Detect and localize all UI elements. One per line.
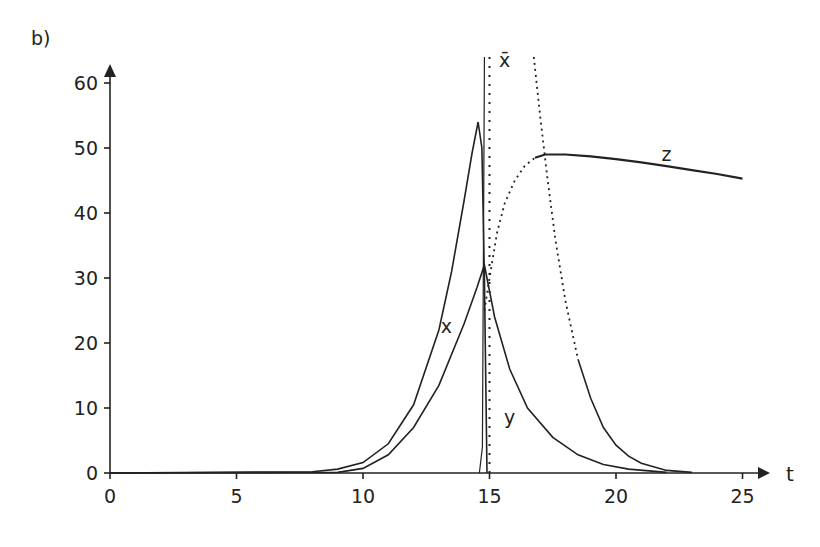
x-axis-label: t	[786, 462, 794, 486]
x-tick-label: 25	[730, 485, 754, 507]
series-y-line	[110, 265, 667, 473]
series-decay-line-dotted	[534, 57, 578, 359]
tick-labels: 0510152025t0102030405060	[74, 72, 794, 507]
x-tick-label: 15	[477, 485, 501, 507]
xbar-spike-line	[479, 57, 484, 473]
y-tick-label: 0	[86, 462, 98, 484]
series-z-line-dotted	[484, 158, 535, 311]
series-label: x	[441, 315, 452, 337]
x-tick-label: 20	[604, 485, 628, 507]
y-tick-label: 10	[74, 397, 98, 419]
series-z-line	[535, 155, 743, 179]
y-tick-label: 60	[74, 72, 98, 94]
y-tick-label: 40	[74, 202, 98, 224]
series-label: z	[662, 143, 672, 165]
axes	[104, 64, 770, 479]
series-layer	[110, 57, 743, 473]
chart: 0510152025t0102030405060 xyzx̄	[0, 0, 820, 547]
y-axis-arrow-icon	[104, 64, 116, 77]
x-axis-arrow-icon	[758, 467, 770, 479]
x-tick-label: 0	[104, 485, 116, 507]
series-label: y	[504, 406, 515, 428]
y-tick-label: 30	[74, 267, 98, 289]
series-decay-line	[578, 359, 692, 472]
series-label: x̄	[499, 49, 510, 71]
series-x-line	[110, 122, 487, 473]
x-tick-label: 5	[230, 485, 242, 507]
y-tick-label: 50	[74, 137, 98, 159]
annotations: xyzx̄	[441, 49, 672, 429]
x-tick-label: 10	[351, 485, 375, 507]
y-tick-label: 20	[74, 332, 98, 354]
